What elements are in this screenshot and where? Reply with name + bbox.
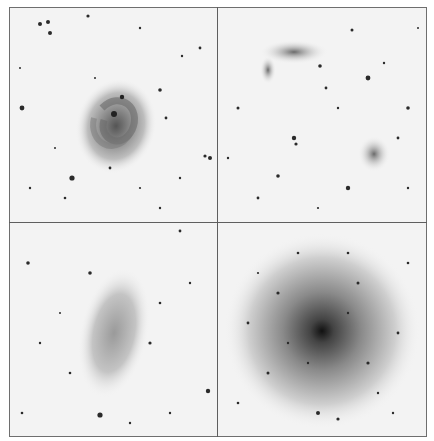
dwarf-galaxies-image [218,8,426,222]
horizontal-divider [9,222,427,223]
panel-bottom-left-irregular-galaxy [10,223,217,436]
irregular-galaxy-image [10,223,217,436]
panel-top-left-spiral-galaxy [10,8,217,222]
panel-top-right-dwarf-galaxies [218,8,426,222]
globular-cluster-image [218,223,426,436]
panel-bottom-right-globular-cluster [218,223,426,436]
spiral-galaxy-image [10,8,217,222]
